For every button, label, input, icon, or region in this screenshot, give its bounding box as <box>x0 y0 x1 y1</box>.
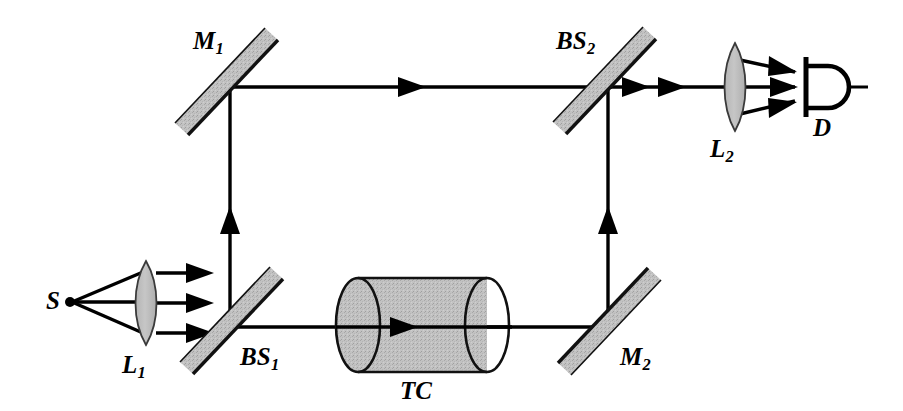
arrow-output-second <box>658 77 686 97</box>
arrow-up-right-arm <box>598 206 618 234</box>
arrow-collimated-top <box>186 263 214 283</box>
label-lens-2: L2 <box>710 136 734 161</box>
arrow-top-arm <box>398 77 426 97</box>
interferometer-figure: S L1 BS1 M1 TC M2 BS2 L2 D <box>0 0 903 411</box>
test-cell-left-cap <box>336 278 380 372</box>
beam-arrowheads <box>186 56 798 343</box>
lens-2-body <box>725 43 746 131</box>
arrow-collimated-middle <box>186 293 214 313</box>
ray-source-bottom <box>72 302 143 333</box>
label-lens-1: L1 <box>122 352 146 377</box>
label-mirror-2: M2 <box>620 344 650 369</box>
detector-body <box>806 57 849 117</box>
label-source: S <box>46 288 60 313</box>
mirror-1 <box>175 28 278 135</box>
arrow-output-first <box>622 77 650 97</box>
test-cell-body <box>336 278 512 372</box>
label-test-cell: TC <box>400 378 432 403</box>
detector-envelope <box>806 66 849 108</box>
label-mirror-1: M1 <box>193 28 223 53</box>
interferometer-canvas <box>0 0 903 411</box>
mirror-1-body <box>175 28 278 135</box>
label-beamsplitter-1: BS1 <box>240 344 279 369</box>
arrow-up-left-arm <box>220 206 240 234</box>
ray-source-top <box>72 272 143 302</box>
source-point <box>65 297 75 307</box>
arrow-focus-middle <box>770 77 798 97</box>
label-beamsplitter-2: BS2 <box>556 28 595 53</box>
label-detector: D <box>813 115 831 140</box>
lens-2 <box>725 43 746 131</box>
